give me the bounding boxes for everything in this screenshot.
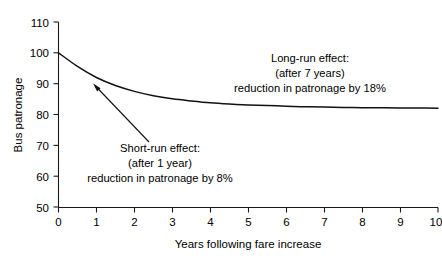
- x-tick-label-5: 5: [245, 216, 251, 228]
- x-tick-label-6: 6: [283, 216, 289, 228]
- y-tick-label-60: 60: [36, 171, 49, 183]
- y-tick-label-100: 100: [30, 47, 49, 59]
- bus-patronage-line-chart: 110 100 90 80 70 60 50 0 1 2 3 4 5 6 7 8: [0, 0, 442, 265]
- x-tick-label-8: 8: [359, 216, 365, 228]
- y-axis-title: Bus patronage: [12, 78, 24, 153]
- long-run-line-3: reduction in patronage by 18%: [234, 82, 386, 94]
- x-tick-label-4: 4: [207, 216, 214, 228]
- short-run-line-1: Short-run effect:: [120, 142, 200, 154]
- x-tick-label-7: 7: [321, 216, 327, 228]
- patronage-decay-curve: [59, 53, 439, 109]
- x-axis-title: Years following fare increase: [175, 238, 322, 250]
- y-tick-label-50: 50: [36, 202, 49, 214]
- short-run-line-3: reduction in patronage by 8%: [87, 172, 233, 184]
- long-run-annotation: Long-run effect: (after 7 years) reducti…: [234, 52, 386, 94]
- long-run-line-2: (after 7 years): [275, 67, 345, 79]
- long-run-line-1: Long-run effect:: [271, 52, 349, 64]
- y-tick-label-80: 80: [36, 109, 49, 121]
- x-tick-label-9: 9: [397, 216, 403, 228]
- x-tick-label-1: 1: [93, 216, 99, 228]
- x-tick-label-0: 0: [55, 216, 61, 228]
- x-tick-label-3: 3: [169, 216, 175, 228]
- short-run-line-2: (after 1 year): [128, 157, 192, 169]
- x-axis-ticks: [59, 208, 439, 213]
- y-tick-label-90: 90: [36, 78, 49, 90]
- x-tick-label-10: 10: [430, 216, 442, 228]
- y-axis-ticks: [54, 22, 59, 207]
- y-tick-label-70: 70: [36, 140, 49, 152]
- y-tick-label-110: 110: [31, 17, 49, 29]
- chart-figure: 110 100 90 80 70 60 50 0 1 2 3 4 5 6 7 8: [0, 0, 442, 265]
- x-tick-label-2: 2: [131, 216, 137, 228]
- short-run-annotation: Short-run effect: (after 1 year) reducti…: [87, 142, 233, 184]
